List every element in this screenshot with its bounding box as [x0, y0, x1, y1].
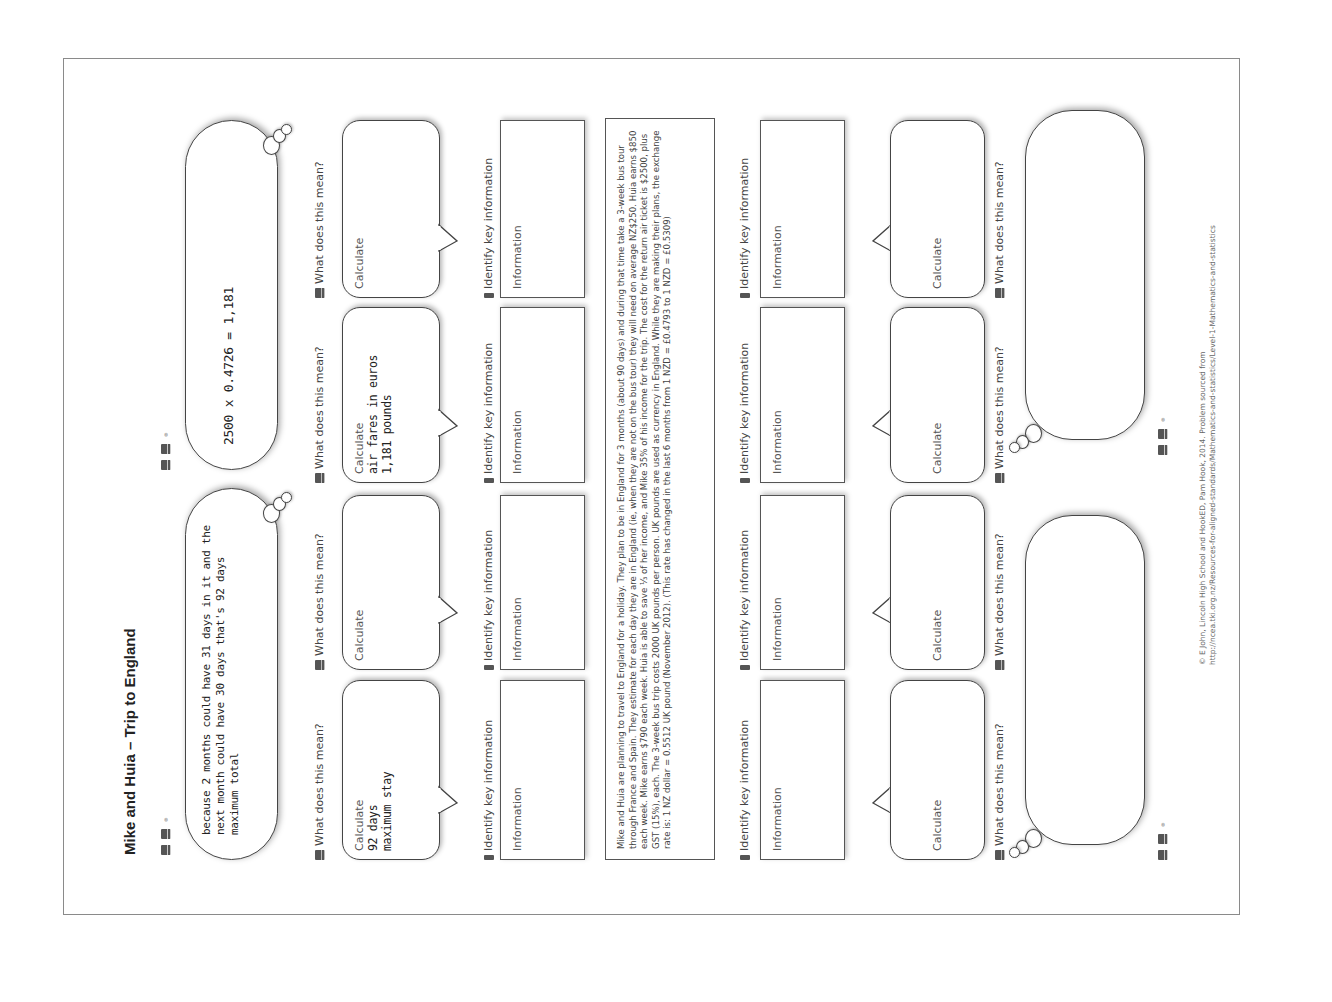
- key-info-text: Identify key information: [482, 158, 495, 289]
- info-box-lower-3[interactable]: Information: [760, 307, 845, 483]
- key-info-label: Identify key information: [738, 720, 751, 860]
- cloud-answer-text: because 2 months could have 31 days in i…: [200, 513, 242, 835]
- key-info-label: Identify key information: [738, 530, 751, 670]
- link-icon: ⚭: [162, 816, 171, 823]
- thought-puffs-1: [263, 483, 303, 523]
- relational-level-icon: [995, 660, 1005, 670]
- question-text: What does this mean?: [313, 533, 326, 656]
- key-info-text: Identify key information: [482, 720, 495, 851]
- calculate-bubble-lower-2[interactable]: Calculate: [890, 495, 985, 670]
- calculate-bubble-2[interactable]: Calculate: [342, 495, 440, 670]
- key-info-label: Identify key information: [738, 158, 751, 298]
- relational-level-icon: [315, 850, 325, 860]
- key-info-label: Identify key information: [482, 343, 495, 483]
- calculate-bubble-3[interactable]: Calculate air fares in euros 1,181 pound…: [342, 307, 440, 483]
- bubble-tail: [437, 408, 459, 438]
- question-label: What does this mean?: [993, 533, 1006, 670]
- question-text: What does this mean?: [993, 346, 1006, 469]
- question-text: What does this mean?: [313, 723, 326, 846]
- calculate-bubble-lower-4[interactable]: Calculate: [890, 120, 985, 298]
- solo-level-icon: [161, 444, 171, 454]
- thought-cloud-2[interactable]: 2500 x 0.4726 = 1,181: [185, 120, 278, 470]
- question-label: What does this mean?: [313, 346, 326, 483]
- unistructural-level-icon: [740, 478, 750, 483]
- calculate-label: Calculate: [931, 129, 944, 289]
- info-box-lower-2[interactable]: Information: [760, 495, 845, 670]
- key-info-text: Identify key information: [738, 343, 751, 474]
- key-info-label: Identify key information: [482, 530, 495, 670]
- solo-icons-bottom-left: ⚭: [1158, 821, 1168, 860]
- link-icon: ⚭: [1159, 416, 1168, 423]
- unistructural-level-icon: [740, 293, 750, 298]
- calculate-bubble-lower-1[interactable]: Calculate: [890, 680, 985, 860]
- relational-level-icon: [995, 850, 1005, 860]
- footer-source-link[interactable]: http://ncea.tki.org.nz/Resources-for-ali…: [1208, 65, 1218, 665]
- unistructural-level-icon: [484, 665, 494, 670]
- footer-credit-line: © E John, Lincoln High School and HookED…: [1198, 65, 1208, 665]
- info-label: Information: [511, 689, 524, 851]
- link-icon: ⚭: [162, 431, 171, 438]
- info-label: Information: [771, 689, 784, 851]
- question-text: What does this mean?: [313, 346, 326, 469]
- calculate-label: Calculate: [353, 689, 366, 851]
- thought-cloud-3[interactable]: [1025, 515, 1145, 845]
- bubble-tail: [437, 223, 459, 253]
- question-label: What does this mean?: [993, 161, 1006, 298]
- solo-level-icon: [161, 845, 171, 855]
- solo-level-icon: [1158, 850, 1168, 860]
- key-info-label: Identify key information: [738, 343, 751, 483]
- info-box-upper-4[interactable]: Information: [500, 120, 585, 298]
- link-icon: ⚭: [1159, 821, 1168, 828]
- worksheet-title: Mike and Huia – Trip to England: [121, 628, 138, 855]
- solo-level-icon: [161, 460, 171, 470]
- question-label: What does this mean?: [313, 533, 326, 670]
- key-info-text: Identify key information: [482, 530, 495, 661]
- calculate-label: Calculate: [353, 129, 366, 289]
- key-info-label: Identify key information: [482, 720, 495, 860]
- question-text: What does this mean?: [993, 723, 1006, 846]
- calculate-label: Calculate: [353, 504, 366, 661]
- calculate-bubble-4[interactable]: Calculate: [342, 120, 440, 298]
- question-label: What does this mean?: [993, 723, 1006, 860]
- calculate-label: Calculate: [931, 504, 944, 661]
- relational-level-icon: [315, 473, 325, 483]
- key-info-text: Identify key information: [738, 720, 751, 851]
- info-box-upper-1[interactable]: Information: [500, 680, 585, 860]
- unistructural-level-icon: [740, 855, 750, 860]
- bubble-tail: [437, 595, 459, 625]
- info-box-upper-3[interactable]: Information: [500, 307, 585, 483]
- info-label: Information: [771, 129, 784, 289]
- question-label: What does this mean?: [993, 346, 1006, 483]
- bubble-tail: [437, 785, 459, 815]
- calculate-bubble-1[interactable]: Calculate 92 days maximum stay: [342, 680, 440, 860]
- info-box-upper-2[interactable]: Information: [500, 495, 585, 670]
- thought-cloud-1[interactable]: because 2 months could have 31 days in i…: [185, 488, 278, 860]
- cloud-answer-text: 2500 x 0.4726 = 1,181: [222, 145, 236, 445]
- solo-level-icon: [1158, 429, 1168, 439]
- calculate-label: Calculate: [353, 316, 366, 474]
- worksheet-page: Mike and Huia – Trip to England ⚭ ⚭ beca…: [63, 58, 1240, 915]
- relational-level-icon: [995, 473, 1005, 483]
- calculate-answer: air fares in euros 1,181 pounds: [366, 316, 394, 474]
- question-label: What does this mean?: [313, 723, 326, 860]
- info-label: Information: [511, 504, 524, 661]
- relational-level-icon: [995, 288, 1005, 298]
- solo-level-icon: [1158, 834, 1168, 844]
- solo-icons-top-right: ⚭: [161, 431, 171, 470]
- key-info-label: Identify key information: [482, 158, 495, 298]
- problem-statement: Mike and Huia are planning to travel to …: [605, 118, 715, 860]
- footer-credit: © E John, Lincoln High School and HookED…: [1198, 65, 1218, 665]
- question-label: What does this mean?: [313, 161, 326, 298]
- thought-cloud-4[interactable]: [1025, 110, 1145, 440]
- info-box-lower-1[interactable]: Information: [760, 680, 845, 860]
- key-info-text: Identify key information: [738, 158, 751, 289]
- info-box-lower-4[interactable]: Information: [760, 120, 845, 298]
- relational-level-icon: [315, 660, 325, 670]
- calculate-bubble-lower-3[interactable]: Calculate: [890, 307, 985, 483]
- solo-icons-top-left: ⚭: [161, 816, 171, 855]
- question-text: What does this mean?: [313, 161, 326, 284]
- thought-puffs-2: [263, 115, 303, 155]
- unistructural-level-icon: [740, 665, 750, 670]
- info-label: Information: [511, 129, 524, 289]
- question-text: What does this mean?: [993, 161, 1006, 284]
